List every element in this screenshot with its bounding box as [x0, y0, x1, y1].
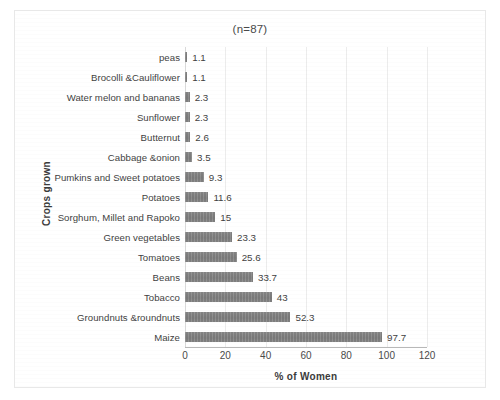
bar [185, 112, 190, 122]
bar-value-label: 1.1 [192, 72, 206, 83]
bar-row: Brocolli &Cauliflower1.1 [185, 67, 427, 87]
bar-row: Beans33.7 [185, 267, 427, 287]
bar-value-label: 1.1 [192, 52, 206, 63]
x-tick-label-40: 40 [260, 350, 271, 361]
category-label: Sunflower [137, 112, 180, 123]
category-label: Butternut [141, 132, 180, 143]
bar-value-label: 2.3 [195, 112, 209, 123]
chart-title: (n=87) [165, 23, 335, 35]
category-label: peas [159, 52, 180, 63]
bar-row: Tomatoes25.6 [185, 247, 427, 267]
bar-row: Maize97.7 [185, 327, 427, 347]
x-tick-label-80: 80 [341, 350, 352, 361]
x-tick-label-120: 120 [419, 350, 436, 361]
bar [185, 212, 215, 222]
category-label: Tomatoes [138, 252, 180, 263]
bar [185, 292, 272, 302]
bar-value-label: 33.7 [258, 272, 277, 283]
bar [185, 252, 237, 262]
category-label: Beans [153, 272, 180, 283]
bar-row: Green vegetables23.3 [185, 227, 427, 247]
x-tick-label-100: 100 [378, 350, 395, 361]
bar-row: Cabbage &onion3.5 [185, 147, 427, 167]
category-label: Tobacco [144, 292, 180, 303]
bar [185, 172, 204, 182]
bar-row: Potatoes11.6 [185, 187, 427, 207]
bar-row: Butternut2.6 [185, 127, 427, 147]
bar [185, 332, 382, 342]
bar-value-label: 15 [220, 212, 231, 223]
bar-row: Water melon and bananas2.3 [185, 87, 427, 107]
bar-value-label: 2.3 [195, 92, 209, 103]
x-tick-label-20: 20 [220, 350, 231, 361]
bar [185, 232, 232, 242]
category-label: Water melon and bananas [67, 92, 180, 103]
category-label: Groundnuts &roundnuts [77, 312, 180, 323]
bar-row: Groundnuts &roundnuts52.3 [185, 307, 427, 327]
bar-value-label: 25.6 [242, 252, 261, 263]
bar [185, 72, 187, 82]
bar-value-label: 23.3 [237, 232, 256, 243]
category-label: Cabbage &onion [108, 152, 180, 163]
bar-row: peas1.1 [185, 47, 427, 67]
x-tick-label-60: 60 [300, 350, 311, 361]
bar [185, 92, 190, 102]
bar-row: Sunflower2.3 [185, 107, 427, 127]
bar-value-label: 97.7 [387, 332, 406, 343]
bar [185, 52, 187, 62]
x-axis-line [185, 347, 427, 348]
bar-value-label: 43 [277, 292, 288, 303]
x-axis-tick-labels: 020406080100120 [185, 350, 427, 366]
plot-area: peas1.1Brocolli &Cauliflower1.1Water mel… [185, 47, 427, 347]
bar-value-label: 2.6 [195, 132, 209, 143]
y-axis-title: Crops grown [41, 161, 52, 226]
bar-value-label: 9.3 [209, 172, 223, 183]
category-label: Green vegetables [103, 232, 180, 243]
bar-row: Pumkins and Sweet potatoes9.3 [185, 167, 427, 187]
bar-row: Sorghum, Millet and Rapoko15 [185, 207, 427, 227]
category-label: Sorghum, Millet and Rapoko [58, 212, 180, 223]
bar-row: Tobacco43 [185, 287, 427, 307]
bar [185, 312, 290, 322]
bar [185, 152, 192, 162]
category-label: Pumkins and Sweet potatoes [54, 172, 180, 183]
bar-value-label: 52.3 [295, 312, 314, 323]
category-label: Brocolli &Cauliflower [91, 72, 180, 83]
category-label: Maize [154, 332, 180, 343]
bar-value-label: 3.5 [197, 152, 211, 163]
bar [185, 132, 190, 142]
bar [185, 192, 208, 202]
bar-value-label: 11.6 [213, 192, 231, 203]
bar [185, 272, 253, 282]
chart-frame: (n=87) peas1.1Brocolli &Cauliflower1.1Wa… [14, 10, 486, 388]
gridline-120 [427, 47, 428, 347]
x-tick-label-0: 0 [182, 350, 188, 361]
category-label: Potatoes [142, 192, 180, 203]
x-axis-title: % of Women [185, 371, 427, 382]
